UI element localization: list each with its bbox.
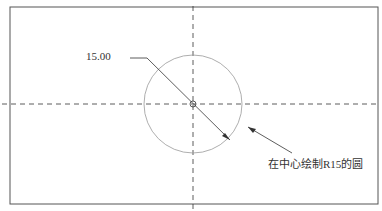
- annotation-arrow-icon: [248, 127, 256, 133]
- sketch-canvas: [0, 0, 382, 211]
- drawing-border: [10, 7, 378, 204]
- radius-dimension-value: 15.00: [86, 50, 111, 62]
- dimension-arrow-icon: [222, 133, 230, 140]
- radius-dimension-leader: [130, 58, 230, 140]
- annotation-leader: [248, 127, 292, 153]
- annotation-text: 在中心绘制R15的圆: [268, 155, 363, 171]
